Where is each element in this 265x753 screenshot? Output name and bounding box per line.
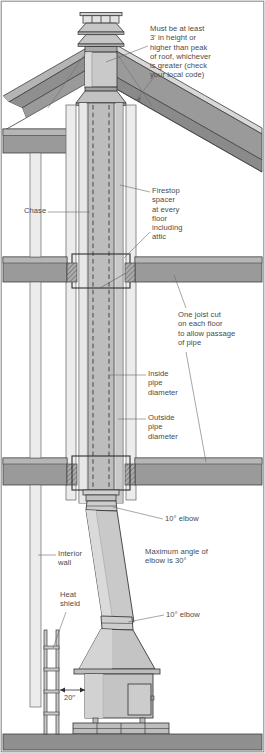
lower-elbow-label: 10° elbow (166, 610, 200, 619)
chimney-cap (78, 13, 124, 47)
pipe-collar (83, 490, 119, 501)
interior-wall-label: Interior wall (58, 549, 82, 568)
inside-pipe-diameter-label: Inside pipe diameter (148, 369, 178, 397)
diagram-page: Must be at least 3' in height or higher … (0, 0, 265, 753)
chimney-installation-diagram (0, 0, 265, 753)
interior-wall (30, 153, 41, 707)
clearance-dimension-label: 20′′ (64, 693, 75, 702)
stove-body (85, 674, 154, 724)
max-angle-note: Maximum angle of elbow is 30° (145, 547, 208, 566)
floor-slab (3, 734, 262, 750)
heat-shield-label: Heat shield (60, 590, 80, 609)
brick-hearth (73, 723, 169, 734)
stove-door (128, 684, 151, 715)
ten-degree-elbow-upper (86, 501, 117, 511)
insulated-pipe (79, 103, 123, 503)
attic-floor (3, 129, 74, 153)
joist-cut-note: One joist cut on each floor to allow pas… (178, 310, 235, 347)
outside-pipe-diameter-label: Outside pipe diameter (148, 413, 178, 441)
chimney-height-note: Must be at least 3' in height or higher … (150, 24, 211, 80)
ten-degree-elbow-lower (101, 616, 133, 630)
firestop-spacer-note: Firestop spacer at every floor including… (152, 186, 182, 242)
chase-label: Chase (24, 206, 46, 215)
upper-elbow-label: 10° elbow (165, 514, 199, 523)
